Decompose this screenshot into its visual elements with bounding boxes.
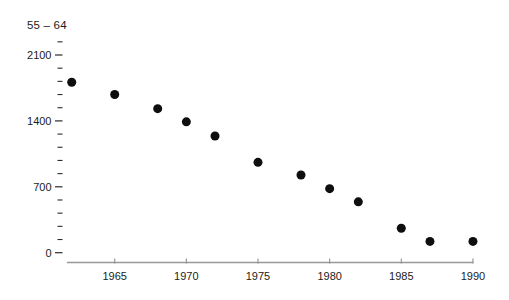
data-point <box>468 237 477 246</box>
chart-canvas: 55 – 64 07001400210019651970197519801985… <box>0 0 509 300</box>
y-axis-label: 1400 <box>27 115 51 127</box>
data-point <box>110 90 119 99</box>
data-point <box>182 117 191 126</box>
x-axis-label: 1975 <box>246 270 270 282</box>
chart-title: 55 – 64 <box>27 19 67 31</box>
y-axis-label: 0 <box>45 247 51 259</box>
data-point <box>211 131 220 140</box>
data-point <box>67 78 76 87</box>
x-axis-label: 1990 <box>461 270 485 282</box>
data-point <box>296 171 305 180</box>
x-axis-label: 1970 <box>174 270 198 282</box>
data-point <box>397 224 406 233</box>
data-point <box>325 184 334 193</box>
data-point <box>354 197 363 206</box>
x-axis-label: 1980 <box>317 270 341 282</box>
x-axis-label: 1985 <box>389 270 413 282</box>
y-axis-label: 700 <box>33 181 51 193</box>
x-axis-label: 1965 <box>102 270 126 282</box>
data-point <box>153 104 162 113</box>
data-point <box>425 237 434 246</box>
y-axis-label: 2100 <box>27 49 51 61</box>
data-point <box>254 158 263 167</box>
scatter-plot: 070014002100196519701975198019851990 <box>0 0 509 300</box>
